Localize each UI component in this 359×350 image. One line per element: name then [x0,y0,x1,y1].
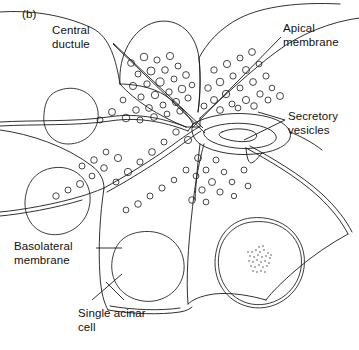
diagram-background [0,0,359,350]
label-basolateral-membrane: Basolateral membrane [14,240,73,267]
acinus-diagram [0,0,359,350]
label-secretory-vesicles: Secretory vesicles [288,110,338,137]
label-apical-membrane: Apical membrane [283,22,339,49]
label-single-acinar-cell: Single acinar cell [78,307,146,334]
label-central-ductule: Central ductule [52,24,90,51]
panel-letter: (b) [22,8,36,22]
